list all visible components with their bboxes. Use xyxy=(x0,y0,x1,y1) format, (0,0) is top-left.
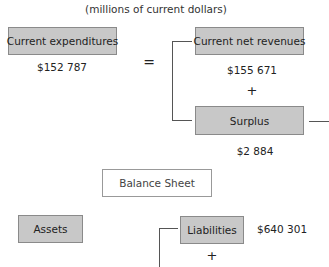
bracket-vertical-line xyxy=(172,41,173,121)
current-net-revenues-value: $155 671 xyxy=(227,64,277,76)
surplus-value: $2 884 xyxy=(237,145,274,157)
liabilities-value: $640 301 xyxy=(257,223,307,235)
surplus-label: Surplus xyxy=(230,115,269,127)
balance-bracket-vertical-line xyxy=(159,228,160,267)
assets-box: Assets xyxy=(18,215,83,243)
assets-label: Assets xyxy=(33,223,67,235)
liabilities-label: Liabilities xyxy=(187,224,237,236)
current-net-revenues-label: Current net revenues xyxy=(194,35,306,47)
balance-plus-sign: + xyxy=(207,248,218,263)
current-net-revenues-box: Current net revenues xyxy=(195,27,304,55)
balance-bracket-tick xyxy=(159,228,178,229)
equals-sign: = xyxy=(143,54,155,70)
diagram-subtitle: (millions of current dollars) xyxy=(85,3,227,15)
plus-sign: + xyxy=(247,83,258,98)
current-expenditures-value: $152 787 xyxy=(37,61,87,73)
surplus-connector-line xyxy=(309,121,329,122)
balance-sheet-label: Balance Sheet xyxy=(119,177,195,189)
bracket-top-tick xyxy=(172,41,192,42)
balance-sheet-box: Balance Sheet xyxy=(102,169,212,197)
surplus-box: Surplus xyxy=(195,106,304,135)
liabilities-box: Liabilities xyxy=(180,216,244,244)
bracket-bottom-tick xyxy=(172,120,192,121)
current-expenditures-label: Current expenditures xyxy=(7,35,118,47)
current-expenditures-box: Current expenditures xyxy=(8,27,117,55)
